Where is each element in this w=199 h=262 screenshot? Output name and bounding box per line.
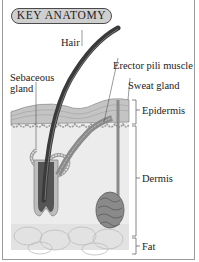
label-sebaceous-line1: Sebaceous xyxy=(10,72,54,83)
label-fat: Fat xyxy=(142,241,155,252)
fat-layer xyxy=(11,224,129,255)
epidermis-bracket xyxy=(132,100,140,124)
sweat-gland xyxy=(96,192,124,228)
label-sweat-gland: Sweat gland xyxy=(128,80,180,91)
label-sebaceous-line2: gland xyxy=(10,83,33,94)
label-hair: Hair xyxy=(61,37,80,48)
fat-bracket xyxy=(132,238,140,254)
skin-anatomy-illustration xyxy=(0,0,199,262)
label-dermis: Dermis xyxy=(142,173,173,184)
label-epidermis: Epidermis xyxy=(142,105,185,116)
label-erector-pili-muscle: Erector pili muscle xyxy=(113,60,193,71)
dermis-bracket xyxy=(132,126,140,236)
